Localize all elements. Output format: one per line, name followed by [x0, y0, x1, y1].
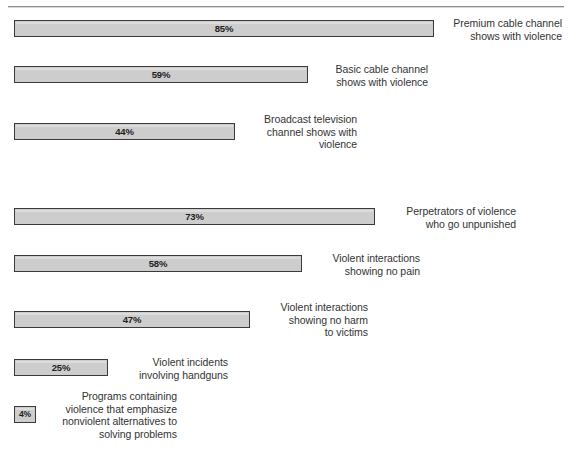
bar: 47% — [14, 311, 250, 328]
bar-category-label: Violent interactions showing no harm to … — [258, 301, 368, 339]
bar-value-label: 47% — [123, 315, 142, 325]
bar-value-label: 58% — [149, 259, 168, 269]
bar-category-label: Programs containing violence that emphas… — [40, 390, 177, 440]
bar-value-label: 59% — [152, 70, 171, 80]
bar: 25% — [14, 359, 108, 376]
bar: 73% — [14, 208, 375, 225]
bar: 44% — [14, 123, 235, 140]
bar-value-label: 4% — [19, 410, 31, 419]
bar-category-label: Premium cable channel shows with violenc… — [442, 17, 562, 42]
bar: 4% — [14, 406, 36, 423]
bar-chart: 85%Premium cable channel shows with viol… — [0, 0, 572, 460]
bar: 85% — [14, 20, 434, 37]
bar-category-label: Basic cable channel shows with violence — [316, 63, 428, 88]
bar-value-label: 25% — [52, 363, 71, 373]
bar: 59% — [14, 66, 308, 83]
bar-category-label: Violent interactions showing no pain — [310, 252, 420, 277]
bar-value-label: 73% — [185, 212, 204, 222]
bar: 58% — [14, 255, 302, 272]
bar-category-label: Violent incidents involving handguns — [116, 356, 228, 381]
bar-value-label: 85% — [215, 24, 234, 34]
bar-category-label: Perpetrators of violence who go unpunish… — [383, 205, 516, 230]
bar-category-label: Broadcast television channel shows with … — [243, 113, 357, 151]
header-divider — [8, 6, 564, 8]
bar-value-label: 44% — [115, 127, 134, 137]
